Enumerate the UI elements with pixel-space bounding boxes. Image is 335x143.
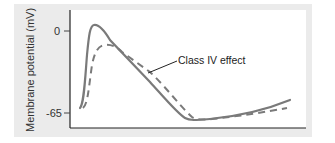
y-tick-label-0: 0: [54, 25, 60, 37]
y-tick-label-neg65: -65: [46, 107, 62, 119]
chart: 0 -65 Class IV effect: [0, 0, 335, 143]
baseline-curve: [80, 25, 290, 120]
annotation-class-iv: Class IV effect: [178, 54, 246, 66]
annotation-leader: [148, 61, 177, 73]
